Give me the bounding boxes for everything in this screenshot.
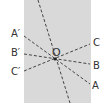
label-c-prime: C′ bbox=[11, 67, 20, 77]
label-a-prime: A′ bbox=[11, 29, 20, 39]
line-aa-prime bbox=[24, 36, 90, 84]
label-a: A bbox=[92, 81, 99, 91]
label-c: C bbox=[93, 38, 100, 48]
label-o: O bbox=[52, 48, 61, 58]
label-b: B bbox=[93, 61, 100, 71]
label-b-prime: B′ bbox=[11, 48, 20, 58]
